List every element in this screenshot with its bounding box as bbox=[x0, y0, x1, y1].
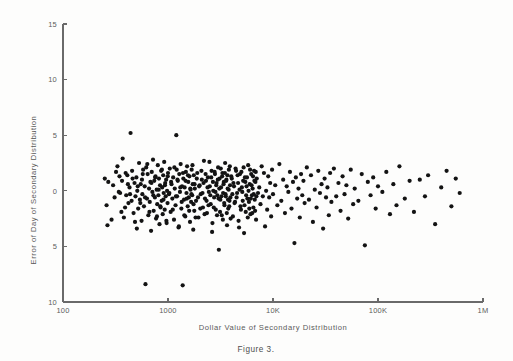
data-point bbox=[275, 203, 279, 207]
data-point bbox=[231, 214, 235, 218]
data-point bbox=[240, 185, 244, 189]
data-point bbox=[228, 195, 232, 199]
data-point bbox=[242, 231, 246, 235]
data-point bbox=[198, 206, 202, 210]
data-point bbox=[346, 217, 350, 221]
x-tick-label: 1000 bbox=[159, 306, 177, 315]
data-point bbox=[301, 179, 305, 183]
data-point bbox=[363, 243, 367, 247]
data-point bbox=[137, 161, 141, 165]
data-point bbox=[313, 188, 317, 192]
x-axis-title: Dollar Value of Secondary Distribution bbox=[199, 323, 348, 332]
data-point bbox=[248, 168, 252, 172]
data-point bbox=[289, 206, 293, 210]
data-point bbox=[338, 209, 342, 213]
data-point bbox=[157, 176, 161, 180]
y-tick-label: 15 bbox=[48, 20, 57, 29]
data-point bbox=[109, 218, 113, 222]
data-point bbox=[349, 168, 353, 172]
data-point bbox=[178, 190, 182, 194]
data-point bbox=[185, 164, 189, 168]
data-point bbox=[136, 206, 140, 210]
data-point bbox=[167, 191, 171, 195]
data-point bbox=[185, 196, 189, 200]
data-point bbox=[172, 165, 176, 169]
data-point bbox=[123, 205, 127, 209]
data-point bbox=[227, 188, 231, 192]
data-point bbox=[318, 191, 322, 195]
data-point bbox=[182, 213, 186, 217]
data-point bbox=[135, 189, 139, 193]
data-point bbox=[190, 163, 194, 167]
data-point bbox=[263, 224, 267, 228]
data-point bbox=[384, 170, 388, 174]
data-point bbox=[181, 171, 185, 175]
data-point bbox=[179, 206, 183, 210]
data-point bbox=[334, 194, 338, 198]
data-point bbox=[203, 172, 207, 176]
data-point bbox=[193, 186, 197, 190]
data-point bbox=[353, 186, 357, 190]
data-point bbox=[195, 171, 199, 175]
data-point bbox=[433, 222, 437, 226]
data-point bbox=[150, 170, 154, 174]
data-point bbox=[130, 169, 134, 173]
data-point bbox=[152, 209, 156, 213]
data-point bbox=[192, 173, 196, 177]
data-point bbox=[163, 208, 167, 212]
data-point bbox=[222, 201, 226, 205]
data-point bbox=[288, 170, 292, 174]
data-point bbox=[128, 192, 132, 196]
data-point bbox=[299, 172, 303, 176]
data-point bbox=[254, 218, 258, 222]
data-point bbox=[125, 173, 129, 177]
data-point bbox=[303, 201, 307, 205]
data-point bbox=[311, 220, 315, 224]
data-point bbox=[174, 133, 178, 137]
data-point bbox=[236, 219, 240, 223]
data-point bbox=[145, 162, 149, 166]
data-point bbox=[340, 174, 344, 178]
data-point bbox=[233, 200, 237, 204]
data-point bbox=[268, 181, 272, 185]
data-point bbox=[164, 219, 168, 223]
data-point bbox=[294, 175, 298, 179]
data-point bbox=[394, 203, 398, 207]
x-tick-label: 100 bbox=[56, 306, 69, 315]
data-point bbox=[130, 176, 134, 180]
data-point bbox=[207, 160, 211, 164]
plot-axes bbox=[63, 24, 483, 302]
data-point bbox=[329, 200, 333, 204]
data-point bbox=[247, 206, 251, 210]
data-point bbox=[191, 228, 195, 232]
data-point bbox=[197, 184, 201, 188]
data-point bbox=[408, 179, 412, 183]
data-point bbox=[191, 202, 195, 206]
data-point bbox=[240, 190, 244, 194]
data-point bbox=[156, 163, 160, 167]
data-point bbox=[170, 196, 174, 200]
data-point bbox=[210, 221, 214, 225]
data-point bbox=[192, 209, 196, 213]
data-point bbox=[300, 193, 304, 197]
data-point bbox=[388, 212, 392, 216]
data-point bbox=[105, 223, 109, 227]
data-point bbox=[214, 183, 218, 187]
data-point bbox=[161, 173, 165, 177]
data-point bbox=[132, 181, 136, 185]
figure-container: 151050510 100100010K100K1M Error of Day … bbox=[0, 0, 513, 361]
x-tick-label: 1M bbox=[478, 306, 489, 315]
data-point bbox=[218, 210, 222, 214]
data-point bbox=[208, 193, 212, 197]
x-axis-ticks: 100100010K100K1M bbox=[56, 298, 488, 315]
data-point bbox=[177, 172, 181, 176]
y-tick-label: 5 bbox=[53, 131, 57, 140]
data-point bbox=[133, 194, 137, 198]
data-point bbox=[244, 193, 248, 197]
data-point bbox=[243, 180, 247, 184]
data-point bbox=[309, 173, 313, 177]
data-point bbox=[162, 160, 166, 164]
data-point bbox=[196, 195, 200, 199]
data-point bbox=[119, 210, 123, 214]
data-point bbox=[205, 185, 209, 189]
